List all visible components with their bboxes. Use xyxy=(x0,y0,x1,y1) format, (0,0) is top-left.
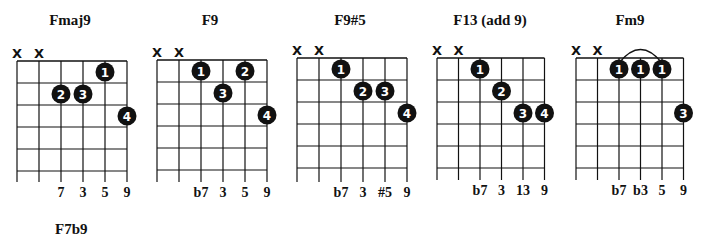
interval-label: 9 xyxy=(264,185,271,200)
finger-dot: 1 xyxy=(96,63,115,82)
chord-diagram: F9#5XX1234b73#59 xyxy=(280,0,420,200)
interval-label: b7 xyxy=(612,183,627,198)
svg-text:3: 3 xyxy=(219,87,227,101)
next-chord-title: F7b9 xyxy=(55,222,88,236)
finger-dot: 4 xyxy=(535,104,554,123)
chord-diagram: F13 (add 9)XX1234b73139 xyxy=(420,0,560,200)
interval-label: 5 xyxy=(242,185,249,200)
finger-dot: 4 xyxy=(398,104,417,123)
svg-text:3: 3 xyxy=(381,85,389,99)
finger-dot: 2 xyxy=(492,82,511,101)
finger-dot: 3 xyxy=(74,85,93,104)
muted-string-icon: X xyxy=(314,43,324,58)
interval-label: b7 xyxy=(473,183,488,198)
svg-text:3: 3 xyxy=(679,107,687,121)
svg-text:1: 1 xyxy=(197,65,205,79)
muted-string-icon: X xyxy=(592,43,602,58)
svg-text:1: 1 xyxy=(337,63,345,77)
finger-dot: 3 xyxy=(376,82,395,101)
finger-dot: 1 xyxy=(653,60,672,79)
svg-text:2: 2 xyxy=(241,65,249,79)
svg-text:4: 4 xyxy=(263,109,271,123)
svg-text:2: 2 xyxy=(359,85,367,99)
fretboard-grid: XX1234b73#59 xyxy=(280,0,420,200)
finger-dot: 3 xyxy=(214,84,233,103)
finger-dot: 2 xyxy=(52,85,71,104)
interval-label: 3 xyxy=(220,185,227,200)
interval-label: 3 xyxy=(360,185,367,200)
svg-text:1: 1 xyxy=(101,66,109,80)
interval-label: b7 xyxy=(194,185,209,200)
svg-text:3: 3 xyxy=(79,88,87,102)
svg-text:1: 1 xyxy=(615,63,623,77)
finger-dot: 3 xyxy=(514,104,533,123)
svg-text:2: 2 xyxy=(497,85,505,99)
muted-string-icon: X xyxy=(292,43,302,58)
finger-dot: 1 xyxy=(631,60,650,79)
interval-label: 5 xyxy=(102,185,109,200)
svg-text:4: 4 xyxy=(403,107,411,121)
chord-diagram: Fm9XX1113b7b359 xyxy=(560,0,700,200)
interval-label: 9 xyxy=(124,185,131,200)
svg-text:1: 1 xyxy=(476,63,484,77)
interval-label: 13 xyxy=(516,183,530,198)
muted-string-icon: X xyxy=(34,46,44,61)
svg-text:3: 3 xyxy=(519,107,527,121)
muted-string-icon: X xyxy=(174,45,184,60)
finger-dot: 2 xyxy=(354,82,373,101)
finger-dot: 2 xyxy=(236,62,255,81)
chord-diagram: Fmaj9XX12347359 xyxy=(0,0,140,200)
finger-dot: 1 xyxy=(332,60,351,79)
interval-label: 7 xyxy=(58,185,65,200)
finger-dot: 3 xyxy=(674,104,693,123)
svg-text:4: 4 xyxy=(123,110,131,124)
interval-label: b3 xyxy=(633,183,648,198)
interval-label: 3 xyxy=(498,183,505,198)
chord-diagram: F9XX1234b7359 xyxy=(140,0,280,200)
interval-label: b7 xyxy=(334,185,349,200)
finger-dot: 1 xyxy=(192,62,211,81)
fretboard-grid: XX1234b7359 xyxy=(140,0,280,200)
finger-dot: 1 xyxy=(471,60,490,79)
finger-dot: 4 xyxy=(118,107,137,126)
muted-string-icon: X xyxy=(571,43,581,58)
fretboard-grid: XX12347359 xyxy=(0,0,140,200)
muted-string-icon: X xyxy=(432,43,442,58)
interval-label: #5 xyxy=(378,185,392,200)
finger-dot: 1 xyxy=(610,60,629,79)
svg-text:4: 4 xyxy=(540,107,548,121)
muted-string-icon: X xyxy=(453,43,463,58)
interval-label: 9 xyxy=(404,185,411,200)
interval-label: 9 xyxy=(680,183,687,198)
muted-string-icon: X xyxy=(152,45,162,60)
interval-label: 3 xyxy=(80,185,87,200)
muted-string-icon: X xyxy=(12,46,22,61)
svg-text:1: 1 xyxy=(636,63,644,77)
svg-text:1: 1 xyxy=(658,63,666,77)
interval-label: 5 xyxy=(659,183,666,198)
interval-label: 9 xyxy=(541,183,548,198)
fretboard-grid: XX1234b73139 xyxy=(420,0,560,200)
fretboard-grid: XX1113b7b359 xyxy=(560,0,700,200)
svg-text:2: 2 xyxy=(57,88,65,102)
finger-dot: 4 xyxy=(258,106,277,125)
